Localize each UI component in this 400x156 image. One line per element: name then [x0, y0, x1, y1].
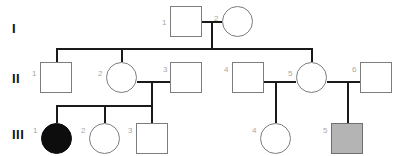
- individual-ii5-id: 5: [288, 70, 292, 78]
- individual-ii2-id: 2: [98, 70, 102, 78]
- individual-i1-id: 1: [162, 19, 166, 27]
- sibling-drop-ii2: [121, 48, 123, 62]
- descent-line-ii5-ii6: [347, 81, 349, 123]
- descent-line-ii2-ii3: [151, 81, 153, 106]
- individual-iii1-id: 1: [33, 127, 37, 135]
- generation-label-i: I: [12, 22, 16, 35]
- individual-iii5[interactable]: [331, 123, 363, 154]
- generation-label-ii: II: [12, 72, 20, 85]
- individual-iii4[interactable]: [260, 123, 291, 154]
- sibling-drop-ii5: [311, 48, 313, 62]
- individual-ii3[interactable]: [170, 62, 202, 93]
- individual-iii3[interactable]: [136, 123, 168, 154]
- individual-i1[interactable]: [170, 6, 202, 37]
- individual-iii5-id: 5: [323, 127, 327, 135]
- individual-iii4-id: 4: [252, 127, 256, 135]
- descent-line-ii4-ii5: [275, 81, 277, 123]
- individual-ii2[interactable]: [106, 62, 137, 93]
- descent-line-gen1: [211, 21, 213, 49]
- sibling-drop-iii1: [56, 105, 58, 123]
- individual-ii6-id: 6: [352, 66, 356, 74]
- sibling-drop-iii2: [104, 105, 106, 123]
- individual-ii4[interactable]: [232, 62, 264, 93]
- individual-ii1[interactable]: [40, 62, 72, 93]
- individual-iii2-id: 2: [81, 127, 85, 135]
- individual-iii2[interactable]: [89, 123, 120, 154]
- individual-iii3-id: 3: [128, 127, 132, 135]
- individual-i2[interactable]: [222, 6, 253, 37]
- individual-ii4-id: 4: [224, 66, 228, 74]
- mating-line-ii4-ii5: [264, 81, 296, 83]
- sibling-drop-iii3: [151, 105, 153, 123]
- individual-ii5[interactable]: [296, 62, 327, 93]
- sibling-drop-ii1: [56, 48, 58, 62]
- pedigree-chart: I II III 1 2 1 2 3 4 5 6: [0, 0, 400, 156]
- generation-label-iii: III: [12, 128, 24, 141]
- individual-ii3-id: 3: [163, 66, 167, 74]
- mating-line-ii2-ii3: [137, 81, 170, 83]
- individual-i2-id: 2: [214, 15, 218, 23]
- individual-iii1[interactable]: [41, 123, 72, 154]
- sibship-line-gen2: [56, 48, 312, 50]
- mating-line-ii5-ii6: [327, 81, 360, 83]
- individual-ii6[interactable]: [360, 62, 392, 93]
- individual-ii1-id: 1: [32, 70, 36, 78]
